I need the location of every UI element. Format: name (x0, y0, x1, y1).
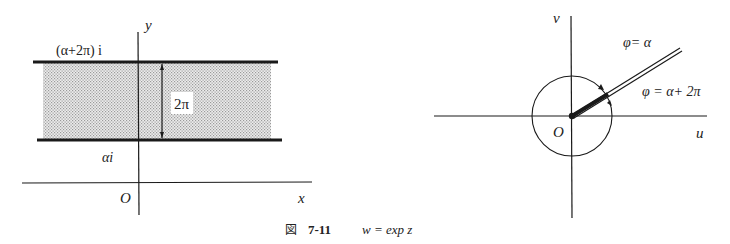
ray-label-bottom: φ = α+ 2π (642, 84, 701, 99)
x-axis (22, 182, 312, 183)
x-axis-label: x (297, 190, 305, 206)
figure-canvas: y (α+2π) i 2π αi O x v φ= α φ = α+ 2π O … (0, 0, 730, 244)
caption-number: 7-11 (308, 222, 331, 237)
v-axis-label: v (553, 10, 560, 26)
lower-line-label: αi (102, 150, 113, 165)
caption-prefix: 図 (285, 223, 297, 237)
y-axis-label: y (143, 17, 152, 33)
caption-formula: w = exp z (362, 222, 412, 237)
strip-width-label: 2π (174, 96, 190, 112)
origin-label-left: O (120, 190, 131, 206)
upper-line-label: (α+2π) i (56, 43, 102, 59)
origin-label-right: O (553, 124, 564, 140)
shaded-strip (43, 63, 271, 140)
u-axis-label: u (696, 125, 704, 141)
ray-thick (572, 94, 608, 116)
figure-caption: 図 7-11 w = exp z (285, 222, 412, 237)
right-panel: v φ= α φ = α+ 2π O u (434, 10, 707, 218)
y-axis (138, 32, 139, 215)
ray-edge-top (572, 48, 680, 115)
origin-point (569, 113, 575, 119)
ray-label-top: φ= α (623, 35, 652, 50)
circle-arrowhead-lower-icon (607, 100, 612, 106)
left-panel: y (α+2π) i 2π αi O x (22, 17, 312, 215)
